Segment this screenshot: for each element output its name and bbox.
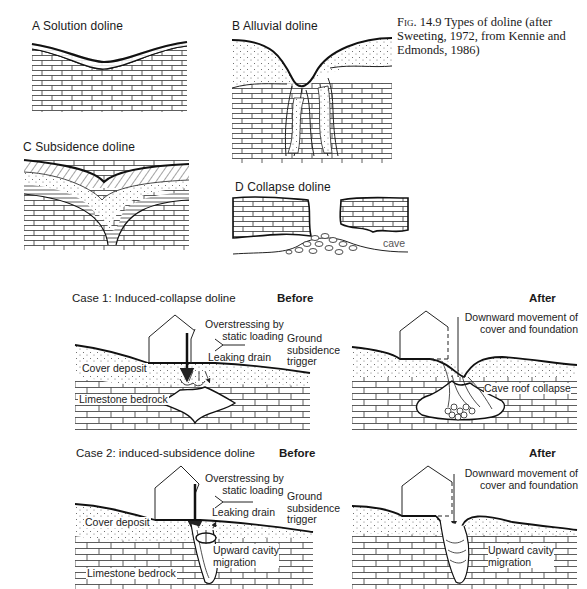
cave-roof-collapse-label: Cave roof collapse [484,383,571,394]
case2-overstressing-label: Overstressing by static loading [205,472,284,496]
case1-title: Case 1: Induced-collapse doline [72,292,236,304]
overstressing-line1: Overstressing by [205,318,284,330]
case1-before-heading: Before [277,292,313,304]
case2-before-heading: Before [279,447,315,459]
overstressing-line2: static loading [205,484,284,496]
case1-leaking-drain-label: Leaking drain [208,352,271,363]
case1-downward-label: Downward movement of cover and foundatio… [443,311,578,335]
figure-caption: Fig. 14.9 Types of doline (after Sweetin… [397,15,587,57]
upward-line1: Upward cavity [213,544,279,556]
case1-after-heading: After [529,292,556,304]
ground-line3: trigger [287,514,340,526]
panel-c-title: C Subsidence doline [23,140,135,154]
case2-downward-label: Downward movement of cover and foundatio… [443,467,578,491]
case1-limestone-label: Limestone bedrock [78,394,169,405]
case1-overstressing-label: Overstressing by static loading [205,318,284,342]
cave-label: cave [383,238,405,249]
case1-cover-deposit-label: Cover deposit [81,363,148,374]
overstressing-line2: static loading [205,330,284,342]
case2-limestone-label: Limestone bedrock [86,568,177,579]
upward-line1: Upward cavity [488,544,554,556]
downward-line2: cover and foundation [443,323,578,335]
upward-line2: migration [488,556,554,568]
downward-line2: cover and foundation [443,479,578,491]
case2-upward-cavity-label: Upward cavity migration [213,544,279,568]
ground-line1: Ground [287,333,340,345]
subsidence-doline-diagram [24,160,189,250]
case2-leaking-drain-label: Leaking drain [212,507,275,518]
case2-ground-trigger-label: Ground subsidence trigger [287,491,340,526]
alluvial-doline-diagram [232,38,392,163]
downward-line1: Downward movement of [443,311,578,323]
panel-b-title: B Alluvial doline [232,19,318,33]
ground-line1: Ground [287,491,340,503]
ground-line3: trigger [287,356,340,368]
panel-d-title: D Collapse doline [235,180,331,194]
figure-number: Fig. 14.9 [397,15,442,29]
collapse-doline-diagram [233,196,408,256]
case2-after-upward-cavity-label: Upward cavity migration [488,544,554,568]
downward-line1: Downward movement of [443,467,578,479]
overstressing-line1: Overstressing by [205,472,284,484]
case2-title: Case 2: induced-subsidence doline [76,447,255,459]
case2-cover-deposit-label: Cover deposit [84,517,151,528]
panel-a-title: A Solution doline [32,19,123,33]
case2-after-heading: After [529,447,556,459]
solution-doline-diagram [32,40,187,112]
upward-line2: migration [213,556,279,568]
case1-ground-trigger-label: Ground subsidence trigger [287,333,340,368]
